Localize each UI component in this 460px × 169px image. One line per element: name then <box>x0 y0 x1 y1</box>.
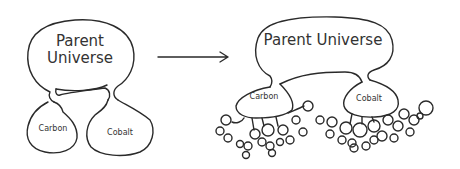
carbon-subuniverses <box>216 101 313 159</box>
right-arrow-icon <box>158 52 228 62</box>
diagram-canvas <box>0 0 460 169</box>
right-carbon-label: Carbon <box>250 92 279 101</box>
right-parent-blob <box>256 17 393 87</box>
left-parent-label-line2: Universe <box>47 50 113 67</box>
right-cobalt-label: Cobalt <box>356 94 382 103</box>
left-parent-label-line1: Parent <box>47 33 113 50</box>
right-carbon-blob <box>236 84 293 118</box>
left-cobalt-label: Cobalt <box>107 128 133 137</box>
right-parent-label: Parent Universe <box>264 32 383 49</box>
cobalt-subuniverses <box>316 101 433 152</box>
left-carbon-label: Carbon <box>39 124 68 133</box>
left-parent-label: Parent Universe <box>47 33 113 67</box>
